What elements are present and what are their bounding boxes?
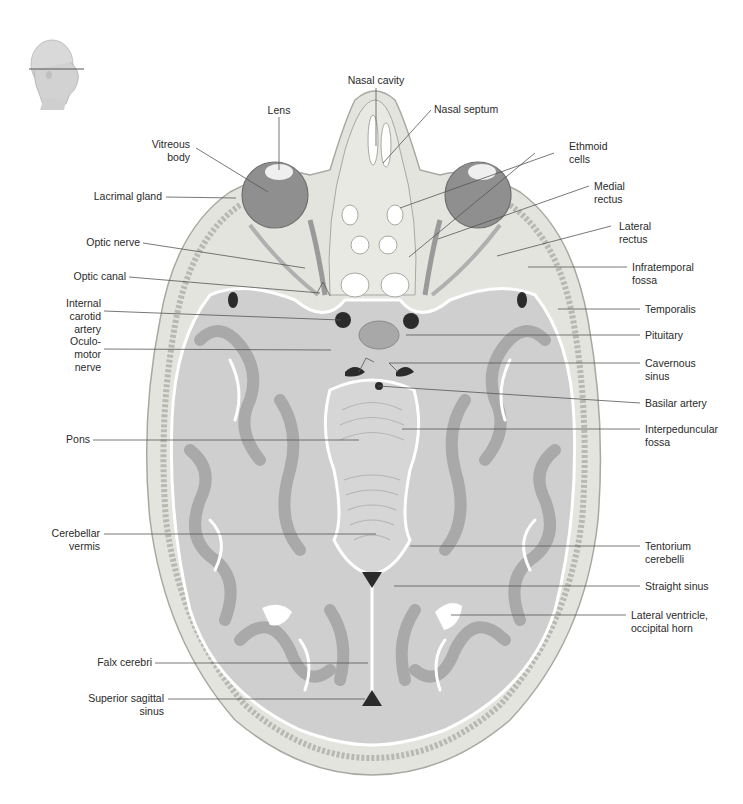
label-pituitary: Pituitary	[645, 329, 683, 342]
label-ethmoid-cells: Ethmoid cells	[569, 140, 608, 166]
label-nasal-cavity: Nasal cavity	[344, 74, 408, 87]
label-lacrimal-gland: Lacrimal gland	[70, 190, 162, 203]
label-nasal-septum: Nasal septum	[434, 103, 498, 116]
label-straight-sinus: Straight sinus	[645, 580, 709, 593]
label-lateral-ventricle-occipital-horn: Lateral ventricle, occipital horn	[631, 609, 708, 635]
label-vitreous-body: Vitreous body	[140, 138, 190, 164]
label-infratemporal-fossa: Infratemporal fossa	[632, 261, 694, 287]
label-cavernous-sinus: Cavernous sinus	[645, 357, 696, 383]
label-lateral-rectus: Lateral rectus	[619, 220, 651, 246]
label-pons: Pons	[40, 433, 90, 446]
label-optic-canal: Optic canal	[50, 270, 126, 283]
label-optic-nerve: Optic nerve	[60, 236, 140, 249]
label-medial-rectus: Medial rectus	[594, 180, 625, 206]
label-superior-sagittal-sinus: Superior sagittal sinus	[50, 692, 164, 718]
head-profile-icon	[29, 40, 84, 110]
label-cerebellar-vermis: Cerebellar vermis	[30, 527, 100, 553]
label-basilar-artery: Basilar artery	[645, 397, 707, 410]
label-falx-cerebri: Falx cerebri	[60, 656, 152, 669]
label-lens: Lens	[264, 104, 294, 117]
head-section	[147, 91, 601, 775]
label-interpeduncular-fossa: Interpeduncular fossa	[645, 423, 718, 449]
label-temporalis: Temporalis	[645, 303, 696, 316]
label-tentorium-cerebelli: Tentorium cerebelli	[645, 540, 691, 566]
label-internal-carotid-artery: Internal carotid artery	[50, 297, 101, 336]
anatomy-figure: Nasal cavity Nasal septum Lens Vitreous …	[0, 0, 743, 804]
label-oculomotor-nerve: Oculo- motor nerve	[50, 335, 101, 374]
